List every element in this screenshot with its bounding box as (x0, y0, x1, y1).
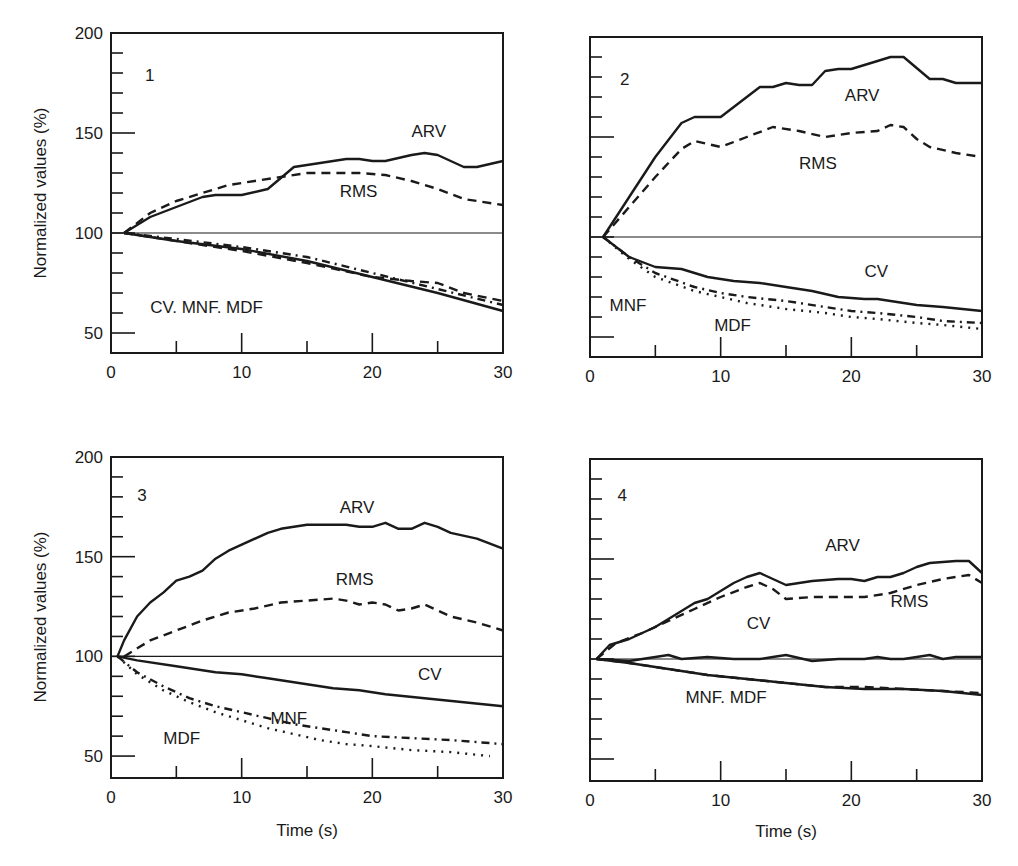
series-mdf-line (597, 659, 983, 693)
annotation-label: MDF (163, 729, 200, 748)
annotation-label: CV (747, 614, 771, 633)
annotation-label: 1 (145, 66, 154, 85)
annotation-label: MDF (714, 316, 751, 335)
x-tick-label: 10 (711, 791, 730, 810)
x-axis-label-right: Time (s) (755, 822, 817, 841)
panel-2-chart: 01020302ARVRMSCVMNFMDF (585, 37, 991, 386)
series-rms-line (603, 125, 982, 237)
y-tick-label: 100 (75, 647, 103, 666)
x-tick-label: 20 (842, 367, 861, 386)
x-tick-label: 0 (106, 363, 115, 382)
x-tick-label: 10 (232, 363, 251, 382)
annotation-label: MNF. MDF (685, 688, 766, 707)
panel-1-chart: 0102030501001502001ARVRMSCV. MNF. MDF (75, 24, 513, 382)
y-tick-label: 50 (84, 747, 103, 766)
annotation-label: RMS (336, 570, 374, 589)
series-arv-line (118, 523, 504, 657)
annotation-label: MNF (610, 296, 647, 315)
x-tick-label: 30 (494, 788, 513, 807)
x-tick-label: 0 (585, 367, 594, 386)
series-mnf-line (603, 237, 982, 323)
annotation-label: 2 (620, 70, 629, 89)
x-tick-label: 20 (842, 791, 861, 810)
x-tick-label: 30 (973, 367, 992, 386)
y-axis-label-top: Normalized values (%) (31, 108, 50, 279)
x-tick-label: 0 (106, 788, 115, 807)
panel-3-chart: 0102030501001502003ARVRMSCVMNFMDF (75, 448, 513, 807)
annotation-label: 3 (137, 486, 146, 505)
series-cv-line (603, 237, 982, 311)
x-tick-label: 30 (973, 791, 992, 810)
annotation-label: CV (864, 262, 888, 281)
y-tick-label: 200 (75, 448, 103, 467)
series-rms-line (597, 575, 983, 659)
x-tick-label: 0 (585, 791, 594, 810)
y-tick-label: 150 (75, 124, 103, 143)
y-tick-label: 50 (84, 324, 103, 343)
x-tick-label: 30 (494, 363, 513, 382)
series-cv-line (597, 655, 983, 661)
annotation-label: ARV (340, 498, 375, 517)
x-tick-label: 10 (232, 788, 251, 807)
x-tick-label: 20 (363, 788, 382, 807)
annotation-label: ARV (412, 122, 447, 141)
series-rms-line (124, 173, 503, 233)
y-axis-label-bottom: Normalized values (%) (31, 532, 50, 703)
series-mnf-line (597, 659, 983, 695)
series-mdf-line (603, 237, 982, 329)
annotation-label: ARV (825, 536, 860, 555)
series-rms-line (124, 599, 503, 657)
x-tick-label: 10 (711, 367, 730, 386)
figure-canvas: 0102030501001502001ARVRMSCV. MNF. MDF 01… (0, 0, 1018, 866)
annotation-label: RMS (891, 592, 929, 611)
y-tick-label: 200 (75, 24, 103, 43)
x-axis-label-left: Time (s) (276, 821, 338, 840)
annotation-label: CV. MNF. MDF (150, 298, 263, 317)
series-arv-line (603, 57, 982, 237)
annotation-label: RMS (340, 182, 378, 201)
annotation-label: 4 (617, 486, 626, 505)
annotation-label: CV (418, 665, 442, 684)
annotation-label: RMS (799, 154, 837, 173)
annotation-label: ARV (845, 86, 880, 105)
annotation-label: MNF (270, 709, 307, 728)
x-tick-label: 20 (363, 363, 382, 382)
plot-frame (590, 459, 982, 781)
panel-4-chart: 01020304ARVRMSCVMNF. MDF (585, 459, 991, 810)
y-tick-label: 150 (75, 548, 103, 567)
series-cv-line (118, 656, 504, 706)
y-tick-label: 100 (75, 224, 103, 243)
